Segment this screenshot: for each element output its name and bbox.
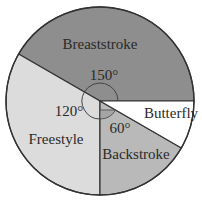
pie-chart: Breaststroke 150° Butterfly 120° 60° Fre…: [0, 0, 202, 200]
label-butterfly: Butterfly: [144, 105, 199, 121]
label-angle-120: 120°: [55, 103, 84, 119]
label-freestyle: Freestyle: [29, 131, 84, 147]
label-angle-60: 60°: [110, 120, 131, 136]
label-breaststroke: Breaststroke: [63, 36, 138, 52]
label-backstroke: Backstroke: [102, 146, 170, 162]
label-angle-150: 150°: [90, 67, 119, 83]
